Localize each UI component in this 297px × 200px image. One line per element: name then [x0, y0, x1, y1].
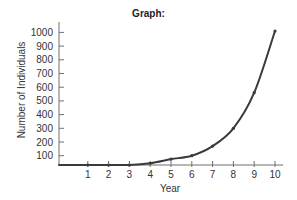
y-tick-label: 100	[36, 150, 53, 161]
y-tick-label: 1000	[31, 27, 54, 38]
y-tick-label: 700	[36, 68, 53, 79]
data-point	[149, 162, 152, 165]
y-tick-label: 400	[36, 109, 53, 120]
x-tick-label: 5	[168, 169, 174, 180]
x-tick-label: 10	[269, 169, 281, 180]
data-point	[190, 154, 193, 157]
data-point	[232, 127, 235, 130]
y-tick-label: 300	[36, 123, 53, 134]
line-chart: 1002003004005006007008009001000123456789…	[0, 0, 297, 200]
x-tick-label: 3	[127, 169, 133, 180]
data-point	[169, 158, 172, 161]
x-tick-label: 2	[106, 169, 112, 180]
x-tick-label: 1	[85, 169, 91, 180]
x-tick-label: 7	[210, 169, 216, 180]
y-tick-label: 800	[36, 54, 53, 65]
data-point	[253, 91, 256, 94]
data-point	[273, 29, 276, 32]
y-tick-label: 600	[36, 82, 53, 93]
x-tick-label: 4	[147, 169, 153, 180]
chart-axes	[59, 22, 283, 165]
data-point	[128, 163, 131, 166]
data-point	[107, 163, 110, 166]
x-tick-label: 6	[189, 169, 195, 180]
x-tick-label: 9	[251, 169, 257, 180]
data-point	[86, 163, 89, 166]
y-tick-label: 200	[36, 137, 53, 148]
y-tick-label: 900	[36, 41, 53, 52]
data-series	[59, 29, 277, 166]
y-tick-label: 500	[36, 95, 53, 106]
x-tick-label: 8	[231, 169, 237, 180]
series-line	[59, 31, 275, 165]
axis-ticks: 1002003004005006007008009001000123456789…	[31, 27, 281, 180]
data-point	[211, 145, 214, 148]
